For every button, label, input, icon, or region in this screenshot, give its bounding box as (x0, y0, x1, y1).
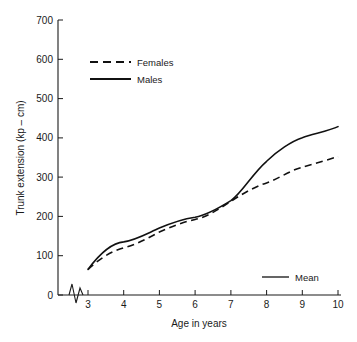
x-tick-label-5: 5 (157, 299, 163, 310)
y-tick-label-300: 300 (36, 172, 53, 183)
x-tick-label-4: 4 (121, 299, 127, 310)
x-axis-title: Age in years (171, 318, 227, 329)
x-axis-tick-labels: 3 4 5 6 7 8 9 10 (85, 299, 344, 310)
y-axis-tick-labels: 0 100 200 300 400 500 600 700 (36, 15, 53, 301)
y-tick-label-0: 0 (47, 290, 53, 301)
legend-label-males: Males (137, 74, 163, 85)
y-axis-title: Trunk extension (kp – cm) (15, 100, 26, 215)
legend-label-females: Females (137, 57, 174, 68)
legend: Females Males (90, 57, 174, 85)
y-tick-label-700: 700 (36, 15, 53, 26)
x-tick-label-7: 7 (228, 299, 234, 310)
x-tick-label-8: 8 (264, 299, 270, 310)
x-tick-label-9: 9 (300, 299, 306, 310)
series-group (88, 127, 338, 270)
y-tick-label-200: 200 (36, 211, 53, 222)
y-axis-ticks (58, 20, 63, 295)
x-axis-ticks (88, 290, 338, 295)
chart-container: 0 100 200 300 400 500 600 700 3 4 5 6 7 (0, 0, 357, 342)
legend-item-males: Males (90, 74, 163, 85)
x-tick-label-10: 10 (332, 299, 344, 310)
x-tick-label-6: 6 (192, 299, 198, 310)
y-tick-label-100: 100 (36, 250, 53, 261)
y-tick-label-600: 600 (36, 54, 53, 65)
series-line-females (88, 157, 338, 270)
series-line-males (88, 127, 338, 270)
mean-annotation: Mean (262, 272, 319, 283)
mean-annotation-label: Mean (295, 272, 319, 283)
x-tick-label-3: 3 (85, 299, 91, 310)
axis-break-zigzag (69, 284, 83, 303)
legend-item-females: Females (90, 57, 174, 68)
y-tick-label-400: 400 (36, 132, 53, 143)
y-tick-label-500: 500 (36, 93, 53, 104)
line-chart: 0 100 200 300 400 500 600 700 3 4 5 6 7 (0, 0, 357, 342)
axis-lines (58, 20, 341, 295)
